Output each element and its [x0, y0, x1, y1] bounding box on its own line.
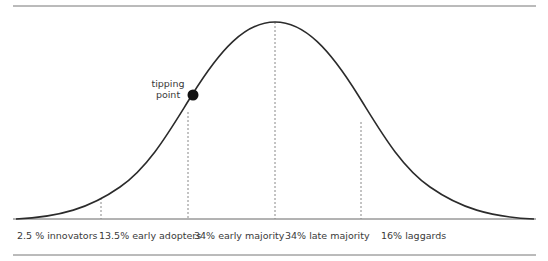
segment-label-laggards: 16% laggards [381, 230, 446, 241]
segment-label-early-adopters: 13.5% early adopters [99, 230, 201, 241]
divider-lines [101, 22, 361, 219]
segment-label-late-majority: 34% late majority [285, 230, 370, 241]
tipping-point-line1: tipping [148, 78, 188, 89]
tipping-point-marker [188, 90, 199, 101]
segment-label-early-majority: 34% early majority [194, 230, 284, 241]
tipping-point-label: tipping point [148, 78, 188, 100]
bell-curve-diagram [0, 0, 548, 261]
segment-label-innovators: 2.5 % innovators [17, 230, 98, 241]
tipping-point-line2: point [148, 89, 188, 100]
